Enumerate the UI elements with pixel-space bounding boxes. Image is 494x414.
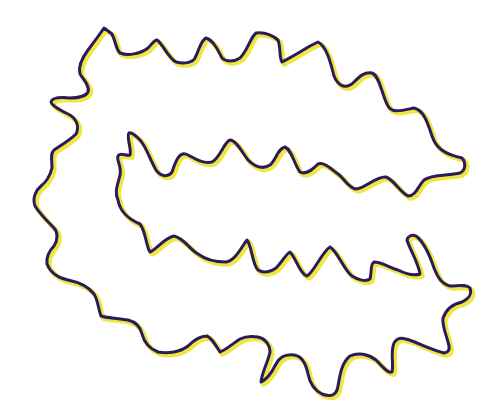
yellow-highlight-stroke xyxy=(36,30,473,398)
outline-group xyxy=(34,28,473,398)
drawing-canvas xyxy=(0,0,494,414)
wavy-outline-figure xyxy=(0,0,494,414)
